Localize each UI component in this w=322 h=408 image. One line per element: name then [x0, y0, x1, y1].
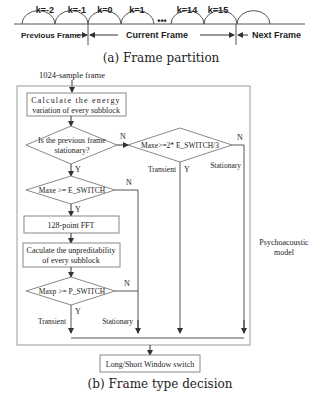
window-switch-text: Long/Short Window switch: [106, 360, 194, 369]
block-label: k=1: [129, 5, 144, 15]
unpred-line1: Caculate the unpreditability: [27, 246, 116, 255]
frame-diagram: k=-2 k=-1 k=0 k=1 k=14 k=15 ••• Previous…: [0, 0, 322, 408]
current-frame-label: Current Frame: [126, 30, 188, 40]
yes-label: Y: [75, 205, 81, 214]
no-label: N: [237, 133, 243, 142]
frame-type-flowchart: 1024-sample frame Calculate the energy v…: [17, 70, 309, 391]
fft-box-text: 128-point FFT: [48, 221, 95, 230]
decision-line1: Is the previous frame: [38, 136, 106, 145]
block-label: k=-2: [36, 5, 54, 15]
next-frame-label: Next Frame: [252, 30, 301, 40]
no-label: N: [126, 178, 132, 187]
yes-label: Y: [75, 307, 81, 316]
unpred-line2: of every subblock: [42, 256, 99, 265]
yes-label: Y: [184, 165, 190, 174]
transient-label: Transient: [148, 165, 177, 174]
input-label: 1024-sample frame: [39, 70, 105, 80]
psycho-line1: Psychoacoustic: [259, 238, 309, 247]
decision-text: Maxp >= P_SWITCH: [39, 287, 106, 296]
connector-line: [232, 145, 244, 333]
block-label: k=0: [97, 5, 112, 15]
decision-line2: stationary?: [54, 146, 90, 155]
previous-frame-label: Previous Frame: [21, 31, 82, 40]
yes-label: Y: [75, 165, 81, 174]
caption-b: (b) Frame type decision: [88, 377, 233, 391]
block-label: k=-1: [68, 5, 86, 15]
decision-text: Maxe >= E_SWITCH: [39, 186, 106, 195]
block-label: k=14: [177, 5, 197, 15]
psycho-line2: model: [274, 248, 295, 257]
no-label: N: [120, 132, 126, 141]
transient-label: Transient: [38, 317, 67, 326]
ellipsis: •••: [157, 16, 166, 26]
stationary-label: Stationary: [102, 317, 133, 326]
stationary-label: Stationary: [210, 161, 241, 170]
subblock-arc: [237, 11, 270, 24]
caption-a: (a) Frame partition: [103, 51, 220, 65]
frame-partition: k=-2 k=-1 k=0 k=1 k=14 k=15 ••• Previous…: [14, 5, 305, 65]
block-label: k=15: [208, 5, 228, 15]
energy-box-line2: variation of every subblock: [32, 106, 120, 115]
no-label: N: [124, 279, 130, 288]
energy-box-line1: Calculate the energy: [31, 96, 121, 105]
previous-stationary-decision: [26, 126, 117, 164]
decision-text: Maxe>=2* E_SWITCH/3: [141, 141, 219, 150]
